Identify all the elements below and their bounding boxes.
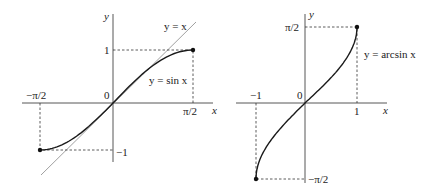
left-y-tick-pos: 1 [104, 44, 110, 56]
sin-endpoint-bottom [38, 148, 42, 152]
arcsin-endpoint-top [355, 25, 359, 29]
arcsin-endpoint-bottom [254, 177, 258, 181]
right-dashed-guide-bottom [256, 103, 305, 179]
right-origin-label: 0 [297, 89, 303, 101]
right-x-tick-neg: −1 [250, 89, 262, 101]
arcsin-curve-label: y = arcsin x [364, 48, 416, 60]
left-y-axis-label: y [103, 10, 109, 22]
sin-curve-label: y = sin x [149, 74, 188, 86]
right-graph: y x 0 −1 1 π/2 −π/2 y = arcsin x [236, 8, 416, 185]
left-x-tick-pos: π/2 [183, 105, 197, 117]
right-x-tick-pos: 1 [354, 105, 360, 117]
figure: y x 0 −π/2 π/2 1 −1 y = sin x y = x y x … [0, 0, 429, 192]
left-origin-label: 0 [104, 89, 110, 101]
left-graph: y x 0 −π/2 π/2 1 −1 y = sin x y = x [22, 10, 217, 175]
right-y-axis-label: y [308, 8, 314, 20]
right-y-tick-pos: π/2 [285, 21, 299, 33]
left-x-tick-neg: −π/2 [26, 89, 46, 101]
left-dashed-guide-bottom [40, 103, 113, 150]
left-x-axis-label: x [211, 104, 217, 116]
right-y-tick-neg: −π/2 [308, 173, 328, 185]
identity-line-label: y = x [164, 20, 187, 32]
left-y-tick-neg: −1 [116, 146, 128, 158]
sin-endpoint-top [191, 48, 195, 52]
right-dashed-guide-top [305, 27, 357, 103]
sin-curve [40, 50, 193, 150]
right-x-axis-label: x [382, 104, 388, 116]
